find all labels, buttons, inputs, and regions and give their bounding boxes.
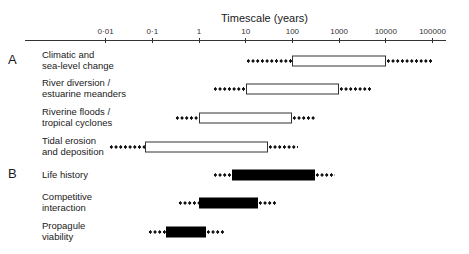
row-label: Climatic andsea-level change bbox=[42, 49, 152, 71]
x-tick-label: 10000 bbox=[375, 27, 397, 36]
range-box bbox=[145, 142, 268, 153]
x-tick bbox=[292, 38, 293, 43]
row-label: River diversion /estuarine meanders bbox=[42, 77, 152, 99]
x-tick-label: 10 bbox=[241, 27, 250, 36]
x-tick bbox=[432, 38, 433, 43]
range-dots-left bbox=[109, 145, 145, 149]
x-tick bbox=[152, 38, 153, 43]
x-tick-label: 100000 bbox=[419, 27, 446, 36]
range-dots-right bbox=[315, 173, 335, 177]
x-tick-label: 0·01 bbox=[98, 27, 114, 36]
range-box bbox=[232, 170, 315, 181]
range-dots-left bbox=[246, 59, 293, 63]
row-label-line: Propagule bbox=[42, 220, 152, 231]
row-label-line: interaction bbox=[42, 202, 152, 213]
x-tick bbox=[199, 38, 200, 43]
range-dots-left bbox=[213, 173, 232, 177]
x-tick bbox=[339, 38, 340, 43]
row-label-line: sea-level change bbox=[42, 60, 152, 71]
range-dots-right bbox=[268, 145, 298, 149]
range-dots-left bbox=[213, 87, 246, 91]
row-label-line: Riverine floods / bbox=[42, 106, 152, 117]
range-dots-right bbox=[339, 87, 372, 91]
row-label-line: viability bbox=[42, 231, 152, 242]
axis-title: Timescale (years) bbox=[0, 12, 469, 24]
row-label-line: tropical cyclones bbox=[42, 117, 152, 128]
range-dots-left bbox=[175, 116, 199, 120]
row-label-line: River diversion / bbox=[42, 77, 152, 88]
range-box bbox=[199, 198, 258, 209]
row-label: Riverine floods /tropical cyclones bbox=[42, 106, 152, 128]
x-tick-label: 0·1 bbox=[147, 27, 159, 36]
row-label: Life history bbox=[42, 169, 152, 180]
section-letter: A bbox=[8, 52, 17, 67]
range-dots-right bbox=[292, 116, 314, 120]
row-label: Competitiveinteraction bbox=[42, 191, 152, 213]
x-tick-label: 100 bbox=[286, 27, 299, 36]
range-box bbox=[246, 84, 339, 95]
section-letter: B bbox=[8, 166, 17, 181]
row-label-line: estuarine meanders bbox=[42, 88, 152, 99]
row-label-line: Life history bbox=[42, 169, 152, 180]
row-label-line: Climatic and bbox=[42, 49, 152, 60]
range-box bbox=[199, 113, 292, 124]
range-box bbox=[292, 56, 385, 67]
x-tick bbox=[245, 38, 246, 43]
range-dots-left bbox=[178, 201, 199, 205]
x-tick bbox=[385, 38, 386, 43]
range-dots-right bbox=[258, 201, 277, 205]
range-dots-right bbox=[206, 230, 225, 234]
x-tick bbox=[105, 38, 106, 43]
x-tick-label: 1 bbox=[197, 27, 201, 36]
row-label: Propaguleviability bbox=[42, 220, 152, 242]
row-label-line: Competitive bbox=[42, 191, 152, 202]
x-axis-line bbox=[25, 40, 446, 41]
range-dots-left bbox=[148, 230, 167, 234]
x-tick-label: 1000 bbox=[330, 27, 348, 36]
range-box bbox=[166, 227, 205, 238]
range-dots-right bbox=[386, 59, 433, 63]
